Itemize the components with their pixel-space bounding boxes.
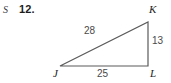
figure-page: S 12. K J L 28 13 25 [0, 0, 171, 83]
side-length-kl: 13 [152, 36, 163, 46]
triangle-figure [0, 0, 171, 83]
vertex-label-j: J [53, 68, 58, 79]
vertex-label-l: L [150, 68, 156, 79]
side-length-jk: 28 [84, 26, 95, 36]
vertex-label-k: K [149, 4, 156, 15]
side-length-jl: 25 [97, 69, 108, 79]
triangle-jkl-outline [60, 22, 148, 66]
